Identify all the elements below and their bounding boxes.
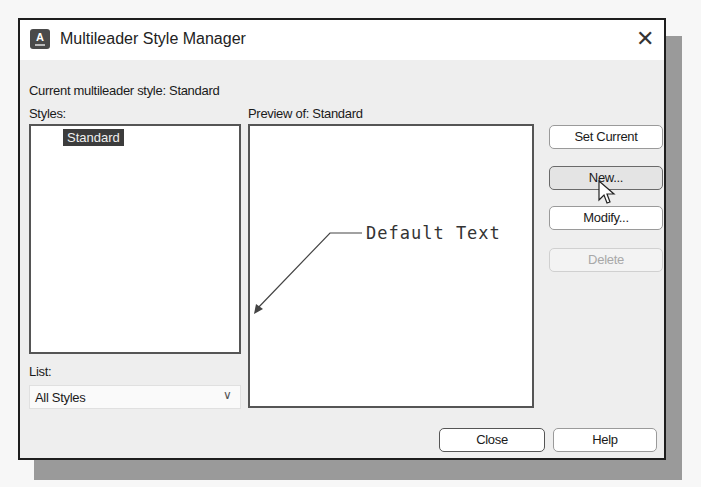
styles-label: Styles: [29,106,66,121]
leader-arrow-icon [250,126,532,406]
style-list-item-standard[interactable]: Standard [63,129,124,146]
current-style-label: Current multileader style: Standard [29,83,219,98]
list-filter-dropdown[interactable]: All Styles ∨ [29,385,241,409]
delete-button[interactable]: Delete [549,248,663,272]
modify-button[interactable]: Modify... [549,206,663,230]
window-title: Multileader Style Manager [60,30,246,48]
preview-label: Preview of: Standard [248,106,363,121]
preview-pane: Default Text [248,124,534,408]
set-current-button[interactable]: Set Current [549,125,663,149]
close-icon[interactable]: ✕ [636,26,654,52]
help-button[interactable]: Help [553,428,657,452]
styles-list[interactable]: Standard [29,124,241,354]
close-button[interactable]: Close [439,428,545,452]
autocad-app-icon: A [30,29,50,49]
multileader-style-manager-dialog: A Multileader Style Manager ✕ Current mu… [18,18,666,460]
preview-leader-text: Default Text [366,223,501,243]
list-label: List: [29,364,51,379]
mouse-pointer-icon [598,180,616,206]
title-bar[interactable]: A Multileader Style Manager ✕ [20,20,664,60]
list-filter-value: All Styles [35,390,85,405]
chevron-down-icon: ∨ [223,388,232,402]
